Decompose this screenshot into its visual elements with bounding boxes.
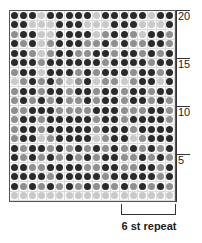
stitch-dot-icon <box>84 173 91 180</box>
chart-cell <box>129 49 138 59</box>
chart-cell <box>38 125 47 135</box>
stitch-dot-icon <box>11 12 18 19</box>
chart-cell <box>111 144 120 154</box>
chart-cell <box>74 11 83 21</box>
stitch-dot-icon <box>93 126 100 133</box>
chart-cell <box>157 125 166 135</box>
stitch-dot-icon <box>56 173 63 180</box>
stitch-dot-icon <box>111 97 118 104</box>
chart-cell <box>148 68 157 78</box>
stitch-dot-icon <box>75 40 82 47</box>
chart-cell <box>74 59 83 69</box>
chart-cell <box>102 116 111 126</box>
stitch-dot-icon <box>84 145 91 152</box>
stitch-dot-icon <box>84 192 91 199</box>
chart-cell <box>38 106 47 116</box>
stitch-dot-icon <box>93 12 100 19</box>
chart-cell <box>148 30 157 40</box>
stitch-dot-icon <box>139 192 146 199</box>
chart-cell <box>65 21 74 31</box>
stitch-dot-icon <box>56 78 63 85</box>
chart-cell <box>83 87 92 97</box>
stitch-dot-icon <box>11 40 18 47</box>
stitch-dot-icon <box>139 59 146 66</box>
stitch-dot-icon <box>102 192 109 199</box>
chart-cell <box>56 106 65 116</box>
chart-cell <box>138 125 147 135</box>
stitch-dot-icon <box>139 21 146 28</box>
stitch-dot-icon <box>121 97 128 104</box>
chart-cell <box>129 163 138 173</box>
chart-cell <box>102 173 111 183</box>
chart-cell <box>56 144 65 154</box>
chart-cell <box>157 87 166 97</box>
chart-cell <box>38 144 47 154</box>
chart-cell <box>129 87 138 97</box>
stitch-dot-icon <box>166 145 173 152</box>
chart-cell <box>120 11 129 21</box>
stitch-dot-icon <box>47 145 54 152</box>
stitch-dot-icon <box>148 59 155 66</box>
stitch-dot-icon <box>93 116 100 123</box>
stitch-dot-icon <box>139 12 146 19</box>
chart-cell <box>10 163 19 173</box>
chart-cell <box>102 106 111 116</box>
chart-cell <box>83 30 92 40</box>
stitch-dot-icon <box>38 107 45 114</box>
stitch-dot-icon <box>111 145 118 152</box>
chart-cell <box>138 87 147 97</box>
stitch-dot-icon <box>20 183 27 190</box>
stitch-dot-icon <box>20 164 27 171</box>
stitch-dot-icon <box>47 12 54 19</box>
chart-cell <box>120 87 129 97</box>
stitch-dot-icon <box>139 135 146 142</box>
stitch-dot-icon <box>38 69 45 76</box>
chart-cell <box>166 97 175 107</box>
stitch-dot-icon <box>75 12 82 19</box>
stitch-dot-icon <box>93 50 100 57</box>
chart-cell <box>129 182 138 192</box>
chart-cell <box>56 116 65 126</box>
stitch-dot-icon <box>47 78 54 85</box>
chart-cell <box>111 30 120 40</box>
chart-cell <box>83 59 92 69</box>
chart-cell <box>166 116 175 126</box>
chart-cell <box>93 192 102 202</box>
chart-cell <box>28 40 37 50</box>
chart-cell <box>93 78 102 88</box>
stitch-dot-icon <box>93 173 100 180</box>
chart-cell <box>93 87 102 97</box>
chart-cell <box>56 173 65 183</box>
stitch-dot-icon <box>130 31 137 38</box>
stitch-dot-icon <box>166 40 173 47</box>
stitch-dot-icon <box>93 97 100 104</box>
stitch-dot-icon <box>148 116 155 123</box>
chart-cell <box>148 59 157 69</box>
chart-cell <box>157 135 166 145</box>
stitch-dot-icon <box>93 88 100 95</box>
chart-cell <box>111 182 120 192</box>
stitch-dot-icon <box>84 50 91 57</box>
stitch-dot-icon <box>75 21 82 28</box>
chart-cell <box>157 40 166 50</box>
stitch-dot-icon <box>29 50 36 57</box>
stitch-dot-icon <box>139 173 146 180</box>
stitch-dot-icon <box>11 145 18 152</box>
chart-cell <box>47 40 56 50</box>
chart-cell <box>138 11 147 21</box>
chart-cell <box>93 182 102 192</box>
chart-cell <box>74 182 83 192</box>
stitch-dot-icon <box>20 50 27 57</box>
stitch-dot-icon <box>66 12 73 19</box>
stitch-dot-icon <box>148 164 155 171</box>
chart-cell <box>166 11 175 21</box>
stitch-dot-icon <box>130 135 137 142</box>
stitch-dot-icon <box>166 59 173 66</box>
stitch-dot-icon <box>130 183 137 190</box>
stitch-dot-icon <box>66 183 73 190</box>
chart-cell <box>10 173 19 183</box>
chart-cell <box>166 182 175 192</box>
stitch-dot-icon <box>66 164 73 171</box>
stitch-dot-icon <box>93 40 100 47</box>
chart-cell <box>19 97 28 107</box>
